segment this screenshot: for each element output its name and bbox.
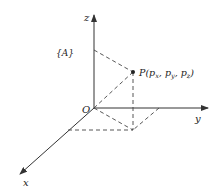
origin-label: O [82,104,90,115]
point-p-label: P(px, py, pz) [138,67,194,80]
point-p-marker [131,70,135,74]
frame-label: {A} [56,48,74,58]
z-projection-line [94,50,133,72]
x-axis [20,108,94,174]
x-axis-label: x [23,177,29,188]
z-axis-label: z [83,12,90,23]
y-projection-line [133,108,159,130]
coordinate-frame-diagram: z y x O {A} P(px, py, pz) [0,0,217,191]
projection-lines [68,50,159,130]
origin-to-p-line [94,72,133,108]
y-axis-label: y [194,113,201,124]
origin-to-foot-line [94,108,133,130]
